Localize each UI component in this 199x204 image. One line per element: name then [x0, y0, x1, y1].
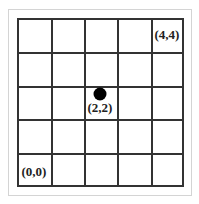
label-bottom-left: (0,0) [22, 164, 47, 180]
grid-line-horizontal-4 [19, 153, 182, 155]
point-marker [94, 88, 107, 101]
grid-line-vertical-2 [84, 20, 86, 185]
grid-line-vertical-4 [151, 20, 153, 185]
grid-line-horizontal-1 [19, 52, 182, 54]
label-center: (2,2) [88, 100, 113, 116]
grid-line-horizontal-3 [19, 119, 182, 121]
grid-line-vertical-1 [51, 20, 53, 185]
grid-line-vertical-3 [117, 20, 119, 185]
label-top-right: (4,4) [155, 27, 180, 43]
